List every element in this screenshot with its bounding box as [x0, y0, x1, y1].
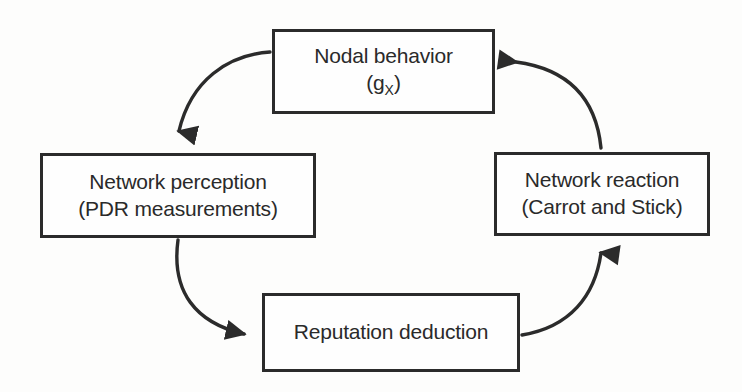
diagram-canvas: Nodal behavior (gX) Network perception (…: [0, 0, 742, 392]
node-nodal-behavior-subscript: X: [385, 82, 394, 98]
node-network-perception: Network perception (PDR measurements): [40, 153, 316, 238]
edge-reaction-to-behavior: [516, 62, 601, 148]
node-nodal-behavior-line1: Nodal behavior: [314, 43, 452, 70]
node-nodal-behavior-paren-close: ): [394, 71, 401, 94]
node-nodal-behavior: Nodal behavior (gX): [272, 29, 495, 114]
edge-behavior-to-perception: [179, 52, 270, 131]
edge-perception-to-reputation: [177, 240, 244, 334]
node-network-reaction: Network reaction (Carrot and Stick): [494, 152, 710, 236]
node-network-reaction-line1: Network reaction: [525, 167, 679, 194]
node-network-reaction-line2: (Carrot and Stick): [522, 194, 683, 221]
node-reputation-deduction-line1: Reputation deduction: [294, 319, 489, 346]
edge-reputation-to-reaction: [522, 253, 601, 335]
node-reputation-deduction: Reputation deduction: [262, 293, 520, 372]
node-network-perception-line1: Network perception: [89, 169, 266, 196]
node-network-perception-line2: (PDR measurements): [78, 196, 277, 223]
node-nodal-behavior-paren-open: (g: [366, 71, 384, 94]
node-nodal-behavior-line2: (gX): [366, 70, 400, 100]
